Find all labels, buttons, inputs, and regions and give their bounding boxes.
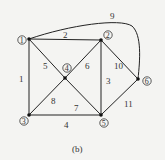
edge-label-6: 6	[85, 61, 90, 71]
svg-text:3: 3	[22, 117, 26, 126]
edge-label-4: 4	[64, 120, 69, 130]
node-dot-3	[27, 113, 31, 117]
node-6: 6	[143, 77, 151, 86]
edge-6	[65, 40, 101, 78]
edge-label-2: 2	[63, 30, 68, 40]
edge-7	[65, 78, 101, 115]
graph-diagram: 1 2 3 4 5 6 7 8 9 10 11 1 2 3 4 5 6 (b)	[0, 0, 165, 160]
edge-label-7: 7	[74, 103, 79, 113]
edge-label-1: 1	[19, 74, 24, 84]
node-dot-5	[99, 113, 103, 117]
edge-label-5: 5	[43, 61, 48, 71]
svg-text:1: 1	[20, 36, 24, 45]
svg-text:6: 6	[145, 77, 149, 86]
edge-label-8: 8	[51, 96, 56, 106]
node-dot-6	[136, 77, 140, 81]
node-dot-1	[27, 37, 31, 41]
svg-text:4: 4	[65, 64, 69, 73]
figure-caption: (b)	[72, 144, 83, 154]
node-1: 1	[18, 36, 26, 45]
node-dot-2	[99, 38, 103, 42]
edge-5	[29, 39, 65, 78]
svg-text:2: 2	[106, 31, 110, 40]
svg-text:5: 5	[102, 119, 106, 128]
edge-10	[101, 40, 138, 79]
node-5: 5	[100, 119, 108, 128]
node-dot-4	[63, 76, 67, 80]
edge-label-11: 11	[124, 99, 133, 109]
edge-label-3: 3	[106, 76, 111, 86]
edge-label-9: 9	[110, 11, 115, 21]
edge-label-10: 10	[114, 61, 124, 71]
node-2: 2	[104, 31, 112, 40]
edge-8	[29, 78, 65, 115]
node-3: 3	[20, 117, 28, 126]
node-4: 4	[63, 64, 71, 73]
